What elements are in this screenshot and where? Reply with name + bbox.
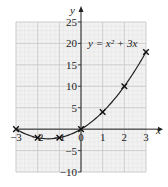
equation-label: y = x² + 3x xyxy=(87,37,137,49)
x-axis-label: x xyxy=(155,124,161,136)
svg-text:−10: −10 xyxy=(60,166,78,178)
svg-text:−3: −3 xyxy=(10,131,22,143)
svg-text:2: 2 xyxy=(122,131,128,143)
svg-text:0: 0 xyxy=(78,131,84,143)
svg-text:1: 1 xyxy=(100,131,106,143)
parabola-chart: −3−2−10123252015105−5−10 y = x² + 3x x y xyxy=(0,0,168,187)
y-axis-label: y xyxy=(69,4,75,16)
svg-text:20: 20 xyxy=(66,37,78,49)
svg-text:25: 25 xyxy=(66,16,78,28)
svg-text:5: 5 xyxy=(72,102,78,114)
svg-text:−5: −5 xyxy=(65,145,77,157)
svg-text:15: 15 xyxy=(66,59,78,71)
svg-text:10: 10 xyxy=(66,80,78,92)
svg-text:3: 3 xyxy=(143,131,149,143)
